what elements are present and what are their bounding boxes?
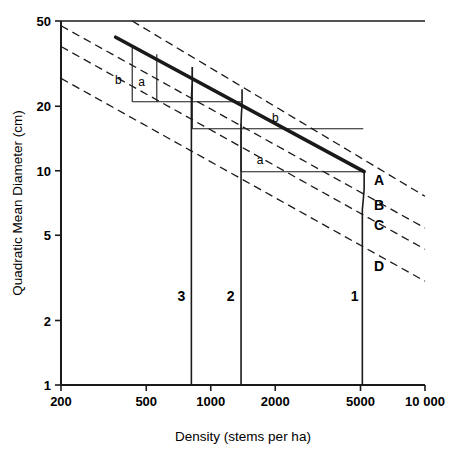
zone-a-upper-left: a	[138, 75, 145, 89]
series-A	[132, 21, 425, 196]
axes-layer	[55, 21, 425, 391]
zone-a-lower: a	[257, 153, 264, 167]
x-tick-label-1: 500	[135, 394, 157, 409]
series-regime-3	[191, 67, 192, 385]
x-tick-label-2: 1000	[196, 394, 225, 409]
zone-b-upper-left: b	[115, 73, 122, 87]
y-axis-title: Quadratic Mean Diameter (cm)	[10, 110, 25, 295]
series-regime-1	[362, 172, 364, 385]
zone-b-middle: b	[272, 111, 279, 125]
series-label-A: A	[374, 172, 384, 188]
series-B	[61, 26, 425, 228]
y-tick-label-2: 5	[44, 228, 51, 243]
y-tick-label-4: 20	[37, 99, 51, 114]
series-label-C: C	[374, 217, 384, 233]
x-axis-title: Density (stems per ha)	[175, 429, 311, 444]
x-tick-label-4: 5000	[346, 394, 375, 409]
y-tick-label-0: 1	[44, 378, 51, 393]
y-tick-label-1: 2	[44, 314, 51, 329]
series-D	[61, 78, 425, 281]
series-label-regime-3: 3	[178, 288, 186, 304]
series-label-regime-2: 2	[227, 288, 235, 304]
x-tick-label-5: 10 000	[405, 394, 445, 409]
self-thinning-chart: 20050010002000500010 000125102050Density…	[0, 0, 461, 452]
series-label-B: B	[374, 197, 384, 213]
series-regime-2	[241, 89, 242, 385]
series-label-D: D	[374, 258, 384, 274]
y-tick-label-5: 50	[37, 14, 51, 29]
dashed-lines-layer	[61, 21, 425, 281]
x-tick-label-0: 200	[50, 394, 72, 409]
series-layer	[116, 37, 364, 385]
x-tick-label-3: 2000	[261, 394, 290, 409]
series-label-regime-1: 1	[351, 288, 359, 304]
chart-container: 20050010002000500010 000125102050Density…	[0, 0, 461, 452]
series-self-thinning-boundary	[116, 37, 364, 171]
y-tick-label-3: 10	[37, 164, 51, 179]
